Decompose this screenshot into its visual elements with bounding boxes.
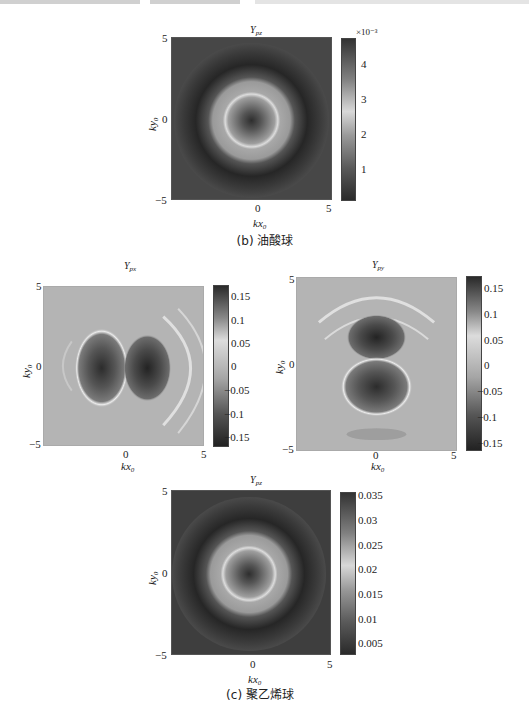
xtick-five: 5 bbox=[327, 659, 333, 670]
colorbar-c-ypz bbox=[340, 492, 356, 655]
ytick-bottom: −5 bbox=[29, 439, 41, 450]
ytick-top: 5 bbox=[289, 274, 295, 285]
colorbar-tick: −0.15 bbox=[477, 438, 502, 449]
xtick-zero: 0 bbox=[250, 659, 256, 670]
y-axis-label: ky0 bbox=[273, 361, 287, 374]
colorbar-tick: 0.02 bbox=[358, 564, 377, 575]
colorbar-tick: 0.01 bbox=[358, 614, 377, 625]
ytick-mid: 0 bbox=[162, 114, 168, 125]
plot-title: Ypz bbox=[236, 24, 276, 37]
colorbar-tick: 0.1 bbox=[484, 309, 498, 320]
colorbar-tick: −0.15 bbox=[224, 432, 249, 443]
heatmap-b-ypz bbox=[171, 37, 332, 200]
colorbar-c-ypy bbox=[466, 276, 482, 451]
figure-b-ypz: Ypz 5 0 −5 0 5 ky0 kx0 ×10⁻³ 4 3 2 1 (b)… bbox=[0, 0, 529, 250]
caption-c: (c) 聚乙烯球 bbox=[195, 685, 325, 702]
colorbar-tick: 0.05 bbox=[231, 338, 250, 349]
colorbar-tick: 0.1 bbox=[231, 315, 245, 326]
colorbar-tick: −0.1 bbox=[224, 409, 244, 420]
colorbar-tick: 0.035 bbox=[358, 490, 383, 501]
colorbar-tick: 0.015 bbox=[358, 589, 383, 600]
colorbar-multiplier: ×10⁻³ bbox=[356, 27, 378, 37]
caption-b: (b) 油酸球 bbox=[205, 231, 325, 248]
xtick-zero: 0 bbox=[255, 203, 261, 214]
ytick-bottom: −5 bbox=[155, 650, 167, 661]
figure-c-ypx: Ypx 5 0 −5 0 5 ky0 kx0 0.15 0.1 0.05 0 −… bbox=[0, 250, 265, 465]
colorbar-tick: 4 bbox=[361, 59, 367, 70]
ytick-mid: 0 bbox=[289, 359, 295, 370]
xtick-five: 5 bbox=[201, 449, 207, 460]
colorbar-tick: 0.025 bbox=[358, 540, 383, 551]
figure-c-ypz: Ypz 5 0 −5 0 5 ky0 kx0 0.035 0.03 0.025 … bbox=[0, 465, 529, 704]
ytick-mid: 0 bbox=[36, 361, 42, 372]
colorbar-tick: −0.1 bbox=[477, 412, 497, 423]
colorbar-tick: 0.05 bbox=[484, 335, 503, 346]
ytick-top: 5 bbox=[162, 486, 168, 497]
y-axis-label: ky0 bbox=[146, 118, 160, 131]
xtick-five: 5 bbox=[451, 450, 457, 461]
plot-title: Ypy bbox=[358, 259, 398, 272]
colorbar-tick: 0 bbox=[231, 361, 237, 372]
colorbar-tick: 0.03 bbox=[358, 515, 377, 526]
colorbar-tick: 1 bbox=[361, 164, 367, 175]
ytick-top: 5 bbox=[36, 281, 42, 292]
heatmap-c-ypx bbox=[43, 286, 204, 446]
heatmap-c-ypy bbox=[296, 277, 457, 451]
colorbar-tick: 2 bbox=[361, 129, 367, 140]
colorbar-tick: 0.15 bbox=[484, 283, 503, 294]
ytick-bottom: −5 bbox=[155, 195, 167, 206]
colorbar-tick: 0.15 bbox=[231, 291, 250, 302]
xtick-five: 5 bbox=[326, 203, 332, 214]
y-axis-label: ky0 bbox=[146, 572, 160, 585]
figure-c-ypy: Ypy 5 0 −5 0 5 ky0 kx0 0.15 0.1 0.05 0 −… bbox=[255, 250, 529, 465]
plot-title: Ypx bbox=[110, 260, 150, 273]
colorbar-tick: 3 bbox=[361, 94, 367, 105]
x-axis-label: kx0 bbox=[253, 217, 266, 231]
plot-title: Ypz bbox=[236, 474, 276, 487]
y-axis-label: ky0 bbox=[20, 365, 34, 378]
colorbar-tick: 0 bbox=[484, 360, 490, 371]
ytick-bottom: −5 bbox=[282, 444, 294, 455]
ytick-top: 5 bbox=[162, 33, 168, 44]
colorbar-c-ypx bbox=[213, 285, 229, 447]
colorbar-tick: −0.05 bbox=[477, 386, 502, 397]
colorbar-tick: 0.005 bbox=[358, 638, 383, 649]
ytick-mid: 0 bbox=[162, 568, 168, 579]
heatmap-c-ypz bbox=[171, 490, 331, 655]
colorbar-b-ypz bbox=[341, 38, 356, 201]
colorbar-tick: −0.05 bbox=[224, 385, 249, 396]
xtick-zero: 0 bbox=[123, 449, 129, 460]
